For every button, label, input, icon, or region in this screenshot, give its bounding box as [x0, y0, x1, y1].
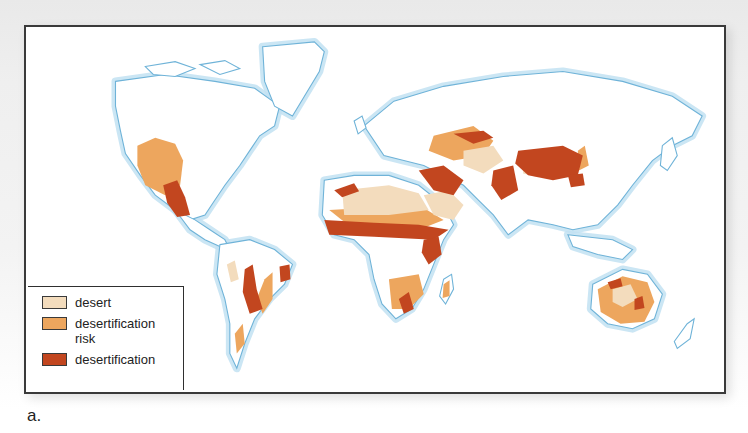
legend-label: desertification risk — [75, 316, 175, 346]
desert-swatch — [42, 296, 67, 309]
legend-label: desertification — [75, 352, 175, 367]
legend-label: desert — [75, 295, 175, 310]
desertification-swatch — [42, 353, 67, 366]
new-zealand — [674, 319, 694, 349]
legend-item-desertification: desertification — [42, 352, 183, 367]
figure-caption: a. — [27, 406, 41, 426]
world-map: desert desertification risk desertificat… — [24, 25, 726, 394]
legend-item-desertification-risk: desertification risk — [42, 316, 183, 346]
map-legend: desert desertification risk desertificat… — [28, 286, 184, 390]
desertification-risk-swatch — [42, 317, 67, 330]
legend-item-desert: desert — [42, 295, 183, 310]
